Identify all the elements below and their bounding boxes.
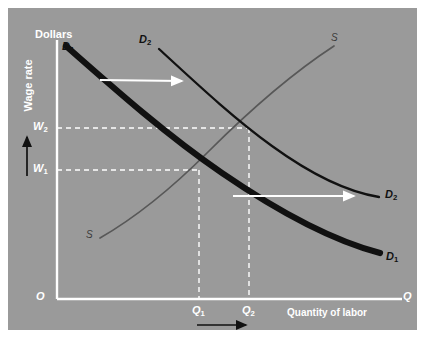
y-tick-label-w1: W1 [33,163,48,175]
y-axis-title: Wage rate [23,55,34,117]
x-tick-label-q2-sub: 2 [251,309,255,318]
demand-curve-d2 [159,49,379,197]
curve-label-d1-right-text: D [386,250,394,262]
x-tick-label-q1-sub: 1 [201,309,205,318]
x-tick-label-q1-text: Q [192,304,201,316]
axis-lines [57,40,402,299]
x-tick-label-q2: Q2 [242,305,255,317]
curve-label-d2-right-sub: 2 [393,193,397,202]
curve-label-d2-right-text: D [385,188,393,200]
y-axis-top-label: Dollars [35,29,72,40]
curve-label-d1-right-sub: 1 [394,255,398,264]
curve-label-s-top: S [331,33,338,43]
curve-label-d1-left: D1 [62,41,74,53]
curve-label-d1-left-sub: 1 [70,45,74,54]
y-tick-label-w2: W2 [33,121,48,133]
y-tick-label-w1-text: W [33,162,43,174]
curve-label-d2-right: D2 [385,189,397,201]
shift-arrow-upper [100,80,182,81]
curve-label-d1-left-text: D [62,40,70,52]
economics-figure: Dollars Wage rate D1 D2 D2 D1 S S W2 W1 … [0,0,425,344]
x-tick-label-q2-text: Q [242,304,251,316]
origin-label: O [36,291,45,302]
x-axis-end-label: Q [403,291,412,302]
y-tick-label-w2-sub: 2 [43,125,47,134]
curve-label-d2-top-sub: 2 [147,38,151,47]
curve-label-d2-top-text: D [139,33,147,45]
y-tick-label-w1-sub: 1 [43,167,47,176]
curve-label-d1-right: D1 [386,251,398,263]
x-tick-label-q1: Q1 [192,305,205,317]
guide-lines [57,128,249,299]
demand-curve-d1 [66,46,380,253]
curve-label-s-bottom: S [86,230,93,240]
y-tick-label-w2-text: W [33,120,43,132]
supply-curve [100,46,334,238]
curve-label-d2-top: D2 [139,34,151,46]
x-axis-title: Quantity of labor [287,308,367,318]
